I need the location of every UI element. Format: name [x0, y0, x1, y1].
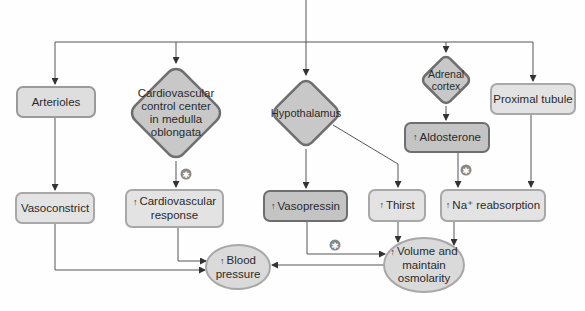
na-reabsorption-node: ↑ Na⁺ reabsorption: [440, 189, 546, 222]
node-label: Arterioles: [32, 96, 81, 109]
star-badge-icon: ✱: [461, 165, 472, 176]
node-label: Cardiovascular control center in medulla…: [136, 87, 216, 139]
svg-text:✱: ✱: [462, 166, 470, 176]
star-badge-icon: ✱: [330, 240, 341, 251]
hypothalamus-node: Hypothalamus: [268, 104, 344, 122]
arterioles-node: Arterioles: [16, 86, 96, 118]
adrenal-cortex-node: Adrenal cortex: [424, 66, 468, 94]
proximal-tubule-node: Proximal tubule: [490, 83, 576, 115]
node-label: Volume and maintain osmolarity: [397, 245, 458, 284]
cv-center-node: Cardiovascular control center in medulla…: [136, 88, 216, 138]
increase-arrow-icon: ↑: [390, 247, 395, 257]
node-label: Hypothalamus: [271, 107, 341, 120]
blood-pressure-node: ↑Blood pressure: [210, 250, 266, 284]
node-label: Thirst: [386, 199, 415, 212]
node-label: Vasopressin: [278, 200, 340, 213]
volume-node: ↑Volume and maintain osmolarity: [390, 243, 458, 287]
node-label: Cardiovascular response: [139, 195, 216, 221]
cv-response-node: ↑Cardiovascular response: [125, 189, 224, 228]
increase-arrow-icon: ↑: [379, 199, 384, 212]
star-badge-icon: ✱: [181, 169, 192, 180]
increase-arrow-icon: ↑: [271, 200, 276, 213]
increase-arrow-icon: ↑: [413, 131, 418, 144]
increase-arrow-icon: ↑: [133, 197, 138, 207]
increase-arrow-icon: ↑: [446, 199, 451, 212]
svg-text:✱: ✱: [182, 170, 190, 180]
thirst-node: ↑ Thirst: [368, 189, 426, 222]
aldosterone-node: ↑ Aldosterone: [404, 122, 490, 153]
node-label: Vasoconstrict: [21, 202, 89, 215]
increase-arrow-icon: ↑: [220, 256, 225, 266]
vasopressin-node: ↑ Vasopressin: [263, 190, 348, 222]
node-label: Na⁺ reabsorption: [452, 199, 540, 212]
vasoconstrict-node: Vasoconstrict: [15, 192, 95, 224]
connector-lines: ✱ ✱ ✱: [0, 0, 585, 311]
flowchart-canvas: ✱ ✱ ✱ Arterioles Cardiovascular control …: [0, 0, 585, 311]
node-label: Adrenal cortex: [424, 68, 468, 92]
node-label: Aldosterone: [420, 131, 481, 144]
svg-text:✱: ✱: [331, 241, 339, 251]
node-label: Proximal tubule: [493, 93, 572, 106]
